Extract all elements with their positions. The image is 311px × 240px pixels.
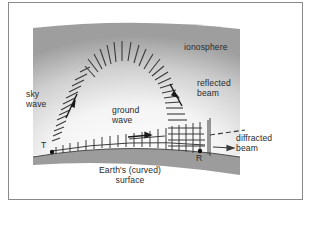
diffracted-beam-label: diffracted beam (236, 134, 272, 153)
transmitter-dot (50, 150, 54, 154)
sky-wave-label-line2: wave (26, 100, 46, 110)
earth-surface-label: Earth's (curved) surface (80, 166, 180, 185)
earth-label-line2: surface (80, 176, 180, 186)
receiver-label: R (196, 154, 202, 164)
diffracted-beam-label-line2: beam (236, 144, 272, 154)
transmitter-label: T (41, 141, 46, 151)
ionosphere-label: ionosphere (184, 43, 228, 53)
ground-wave-label: ground wave (112, 106, 139, 125)
sky-wave-label: sky wave (26, 90, 46, 109)
reflected-beam-label: reflected beam (197, 79, 231, 98)
reflected-beam-label-line2: beam (197, 89, 231, 99)
ground-wave-label-line2: wave (112, 116, 139, 126)
